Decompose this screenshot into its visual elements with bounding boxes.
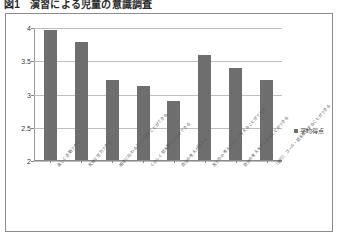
figure-caption: 図1演習による児童の意識調査	[4, 0, 152, 12]
bar-slot	[35, 28, 66, 160]
x-axis-category-label: 友達と協力できる	[87, 164, 91, 167]
plot-area: 43.532.52	[34, 28, 282, 161]
y-axis-tick-mark	[31, 95, 34, 96]
y-axis-tick-label: 2	[27, 158, 31, 165]
x-axis-category-label: 相手に伝わるように話すことができる	[118, 164, 122, 167]
y-axis-tick-mark	[31, 128, 34, 129]
x-axis-category-label: 自分の考えをまとめることができる	[242, 164, 246, 167]
chart-frame: 43.532.52 楽しく活動できる友達と協力できる相手に伝わるように話すことが…	[5, 13, 333, 232]
y-axis-tick-mark	[31, 61, 34, 62]
x-axis-category-label: 楽しく活動できる	[56, 164, 60, 167]
x-axis-tick-mark	[143, 160, 144, 163]
bar	[44, 30, 57, 160]
legend-square-marker-icon	[294, 129, 298, 133]
x-axis-tick-mark	[112, 160, 113, 163]
y-axis-tick-label: 3.5	[21, 58, 31, 65]
x-axis-tick-mark	[81, 160, 82, 163]
bar-slot	[97, 28, 128, 160]
x-axis-tick-mark	[267, 160, 268, 163]
bar-slot	[66, 28, 97, 160]
x-axis-category-label: 自分の考えが深まる	[180, 164, 184, 167]
x-axis-category-label: くわしく話を聞くことができる	[149, 164, 153, 167]
chart-legend: 平均得点	[294, 126, 324, 135]
x-axis-category-label: （進行）ゴール・話を整理することができる	[273, 164, 277, 167]
x-axis-tick-mark	[174, 160, 175, 163]
bar-series	[35, 28, 282, 160]
figure-caption-text: 演習による児童の意識調査	[30, 0, 152, 10]
x-axis-tick-mark	[236, 160, 237, 163]
y-axis-tick-label: 4	[27, 25, 31, 32]
x-axis-tick-mark	[50, 160, 51, 163]
y-axis-tick-label: 3	[27, 91, 31, 98]
x-axis-category-label: 友だちの考えと比べて考えることができる	[211, 164, 215, 167]
legend-entry-label: 平均得点	[300, 126, 324, 135]
x-axis-tick-mark	[205, 160, 206, 163]
y-axis-tick-mark	[31, 161, 34, 162]
bar	[137, 86, 150, 160]
y-axis-tick-mark	[31, 28, 34, 29]
y-axis-tick-label: 2.5	[21, 124, 31, 131]
figure-caption-number: 図1	[4, 0, 20, 10]
